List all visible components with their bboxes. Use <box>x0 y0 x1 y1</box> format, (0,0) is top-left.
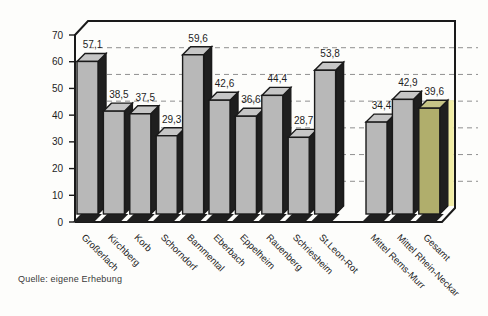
bar <box>156 136 177 214</box>
bar <box>392 99 413 214</box>
bar-value-label: 29,3 <box>162 114 182 125</box>
bar-value-label: 34,4 <box>372 100 392 111</box>
bar-value-label: 36,6 <box>241 94 261 105</box>
bar-value-label: 37,5 <box>136 92 156 103</box>
bar-chart-canvas: 01020304050607057,1Großerlach38,5Kirchbe… <box>0 0 488 316</box>
bar <box>209 100 230 214</box>
bar <box>366 122 387 214</box>
y-tick-label: 70 <box>52 30 64 41</box>
highlight-glow <box>448 100 454 206</box>
bar <box>130 114 151 214</box>
bar <box>419 108 440 214</box>
bar-value-label: 38,5 <box>109 89 129 100</box>
bar-value-label: 59,6 <box>188 33 208 44</box>
bar-value-label: 28,7 <box>294 115 314 126</box>
bar-side-face <box>440 100 448 214</box>
bar-value-label: 39,6 <box>425 86 445 97</box>
category-label: Korb <box>132 232 154 254</box>
bar <box>235 116 256 214</box>
bar-value-label: 53,8 <box>320 48 340 59</box>
bar-value-label: 57,1 <box>83 39 103 50</box>
y-tick-label: 20 <box>52 163 64 174</box>
bar-value-label: 42,6 <box>215 78 235 89</box>
bar <box>262 95 283 214</box>
y-tick-label: 60 <box>52 56 64 67</box>
bar-value-label: 42,9 <box>398 77 418 88</box>
bar <box>183 55 204 214</box>
bar-side-face <box>336 62 344 214</box>
y-tick-label: 0 <box>57 217 63 228</box>
bar <box>77 61 98 214</box>
scanned-bar-chart-figure: 01020304050607057,1Großerlach38,5Kirchbe… <box>0 0 488 316</box>
source-caption: Quelle: eigene Erhebung <box>18 274 122 284</box>
bar <box>103 111 124 214</box>
bar-value-label: 44,4 <box>268 73 288 84</box>
bar <box>315 70 336 214</box>
y-tick-label: 10 <box>52 190 64 201</box>
y-tick-label: 40 <box>52 110 64 121</box>
bar <box>288 137 309 214</box>
y-tick-label: 30 <box>52 136 64 147</box>
y-tick-label: 50 <box>52 83 64 94</box>
